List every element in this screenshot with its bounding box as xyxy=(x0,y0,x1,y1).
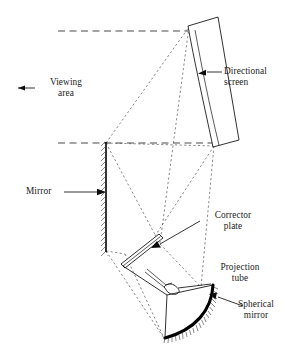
tube-housing-outline xyxy=(123,266,213,337)
mirror-hatching xyxy=(101,142,105,256)
viewing-area-label-line2: area xyxy=(37,88,95,99)
directional-screen-label-line1: Directional xyxy=(224,66,290,77)
projection-tube xyxy=(145,269,179,294)
corrector-plate xyxy=(121,234,163,268)
figure-root: Viewing area Directional screen Mirror C… xyxy=(0,0,290,354)
spherical-mirror-label-line2: mirror xyxy=(226,310,286,321)
projection-tube-label: Projection tube xyxy=(209,262,271,285)
corrector-plate-label: Corrector plate xyxy=(201,210,265,233)
corrector-plate-label-line2: plate xyxy=(201,221,265,232)
projection-tube-leader xyxy=(178,284,211,288)
viewing-area-label: Viewing area xyxy=(37,77,95,100)
projection-tube-label-line1: Projection xyxy=(209,262,271,273)
projection-tube-label-line2: tube xyxy=(209,273,271,284)
viewing-area-arrow-icon xyxy=(18,86,35,91)
mirror-label-line1: Mirror xyxy=(26,186,70,197)
directional-screen-label: Directional screen xyxy=(224,66,290,89)
spherical-mirror-label: Spherical mirror xyxy=(226,299,286,322)
mirror-leader xyxy=(64,189,106,195)
mirror-label: Mirror xyxy=(26,186,70,197)
spherical-mirror-label-line1: Spherical xyxy=(226,299,286,310)
corrector-plate-label-line1: Corrector xyxy=(201,210,265,221)
directional-screen-label-line2: screen xyxy=(224,77,290,88)
flat-mirror xyxy=(101,142,106,256)
viewing-area-label-line1: Viewing xyxy=(37,77,95,88)
